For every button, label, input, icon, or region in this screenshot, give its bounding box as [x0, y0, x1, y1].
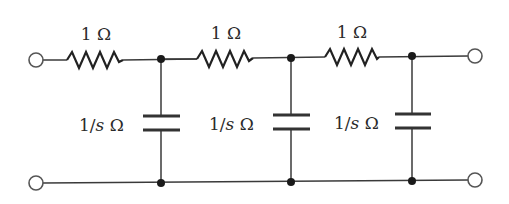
- resistor-2: [197, 51, 253, 67]
- junction-dot-bottom-3: [408, 177, 416, 185]
- junction-dot-top-3: [408, 52, 416, 60]
- junction-dot-bottom-1: [157, 179, 165, 187]
- resistor-1: [67, 52, 123, 68]
- resistor-3: [325, 49, 379, 65]
- ground-rail: [43, 180, 468, 183]
- capacitor-1: [143, 116, 180, 130]
- terminal-input-top: [29, 53, 43, 67]
- junction-dot-top-1: [157, 55, 165, 63]
- resistor-3-label: 1 Ω: [337, 22, 367, 42]
- capacitor-2: [273, 115, 310, 129]
- terminal-output-top: [468, 49, 482, 63]
- junction-dot-top-2: [287, 54, 295, 62]
- rc-ladder-circuit: 1 Ω 1 Ω 1 Ω 1/s Ω 1/s Ω 1/s Ω: [0, 0, 509, 204]
- capacitor-2-label: 1/s Ω: [209, 114, 254, 134]
- capacitor-3-label: 1/s Ω: [334, 113, 379, 133]
- resistor-1-label: 1 Ω: [81, 24, 111, 44]
- capacitor-3: [395, 114, 431, 128]
- capacitor-1-label: 1/s Ω: [79, 115, 124, 135]
- terminal-input-bottom: [29, 176, 43, 190]
- junction-dot-bottom-2: [287, 178, 295, 186]
- resistor-2-label: 1 Ω: [211, 23, 241, 43]
- wire-r3-to-node3: [379, 56, 468, 57]
- terminal-output-bottom: [468, 173, 482, 187]
